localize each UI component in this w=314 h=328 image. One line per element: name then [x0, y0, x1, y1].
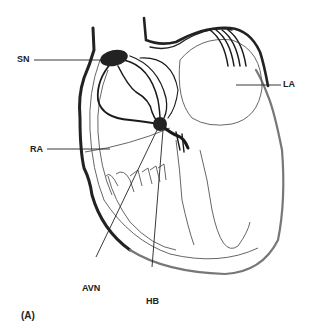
conduction-pathways: [98, 30, 246, 152]
label-avn: AVN: [82, 284, 100, 293]
label-hb: HB: [146, 297, 159, 306]
panel-label: (A): [21, 310, 35, 321]
label-sn: SN: [17, 55, 30, 64]
label-ra: RA: [30, 145, 43, 154]
sinus-node: [99, 47, 130, 68]
heart-inner-outlines: [85, 39, 262, 258]
heart-conduction-diagram: [0, 0, 314, 328]
label-la: LA: [283, 80, 295, 89]
av-node: [153, 117, 167, 131]
